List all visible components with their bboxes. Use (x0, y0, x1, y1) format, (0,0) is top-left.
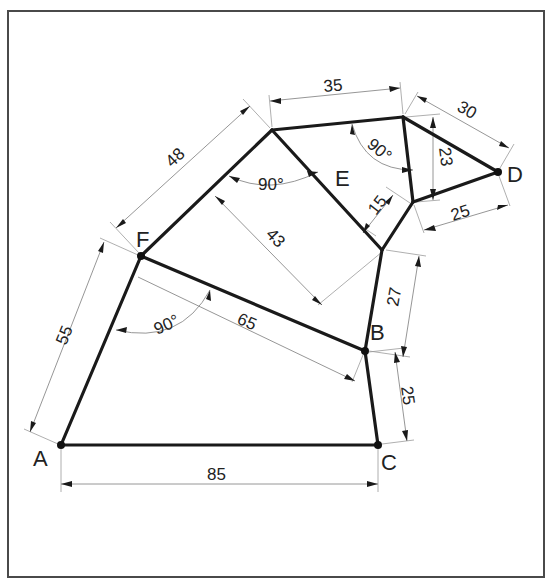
extension-lines (24, 82, 514, 492)
label-A: A (33, 446, 48, 471)
angle-at-top-left: 90° (258, 175, 284, 194)
angle-at-top-right: 90° (363, 135, 395, 166)
point-C (374, 441, 382, 449)
point-D (494, 168, 502, 176)
dim-BC: 25 (397, 385, 418, 406)
geometry-diagram: A C B F D E 85 55 48 35 30 23 25 15 43 2… (0, 0, 553, 583)
dim-AF: 55 (52, 323, 77, 348)
edge-FB (141, 256, 365, 351)
edge-F-top (141, 130, 272, 256)
edge-top (272, 117, 403, 130)
point-B (361, 347, 369, 355)
edge-vertical (403, 117, 413, 202)
point-F (137, 252, 145, 260)
label-C: C (381, 450, 397, 475)
dim-F-top: 48 (162, 144, 189, 171)
drawing-frame (8, 11, 544, 577)
label-D: D (507, 162, 523, 187)
label-E: E (335, 166, 350, 191)
edge-junction-inner (382, 202, 413, 250)
dim-top: 35 (323, 75, 344, 96)
dim-vertical: 23 (435, 146, 456, 167)
edge-inner-D (413, 172, 498, 202)
edge-AF (61, 256, 141, 445)
point-A (57, 441, 65, 449)
points (57, 168, 502, 449)
dim-AC: 85 (207, 465, 226, 484)
arrowheads (30, 86, 509, 487)
edge-CB (365, 351, 378, 445)
angle-at-F: 90° (151, 311, 182, 339)
label-F: F (136, 227, 149, 252)
dim-B-junction: 27 (383, 286, 405, 308)
dim-43: 43 (262, 225, 289, 252)
dim-FB: 65 (234, 309, 259, 334)
label-B: B (370, 320, 385, 345)
figure-edges (61, 117, 498, 445)
dim-E-offset: 15 (364, 192, 391, 219)
